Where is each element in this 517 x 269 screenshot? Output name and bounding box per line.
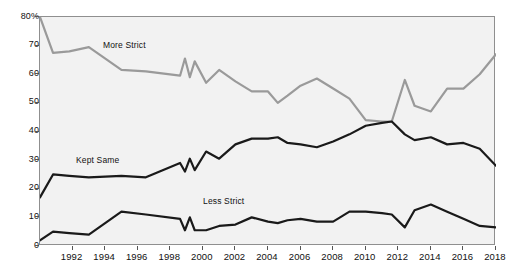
x-axis-tick [365, 246, 366, 250]
series-annotation-less-strict: Less Strict [203, 196, 244, 206]
x-axis-tick [169, 246, 170, 250]
x-axis-tick [462, 246, 463, 250]
series-annotation-kept-same: Kept Same [76, 155, 119, 165]
x-axis-tick [300, 246, 301, 250]
x-axis-tick-label: 2018 [475, 252, 515, 262]
x-axis-tick [137, 246, 138, 250]
x-axis-tick [104, 246, 105, 250]
line-chart: 01020304050607080% 199219941996199820002… [0, 0, 517, 269]
series-annotation-more-strict: More Strict [103, 40, 146, 50]
x-axis-tick [430, 246, 431, 250]
x-axis-tick [495, 246, 496, 250]
x-axis-tick [72, 246, 73, 250]
x-axis-tick [332, 246, 333, 250]
x-axis: 1992199419961998200020022004200620082010… [0, 0, 517, 269]
x-axis-tick [397, 246, 398, 250]
x-axis-tick [202, 246, 203, 250]
x-axis-tick [267, 246, 268, 250]
x-axis-tick [234, 246, 235, 250]
